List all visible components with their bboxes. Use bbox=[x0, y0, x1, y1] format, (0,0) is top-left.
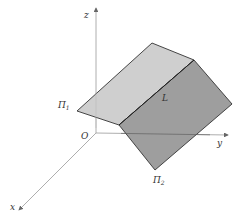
plane-1-label: Π1 bbox=[57, 100, 70, 111]
plane-2-label: Π2 bbox=[152, 175, 165, 186]
x-axis-label: x bbox=[10, 202, 15, 212]
origin-label: O bbox=[81, 131, 89, 141]
x-axis bbox=[19, 133, 96, 210]
diagram-canvas: z y x O L Π1 Π2 bbox=[0, 0, 239, 222]
z-axis-label: z bbox=[83, 10, 89, 20]
line-L-label: L bbox=[161, 93, 168, 103]
y-axis-label: y bbox=[216, 138, 223, 148]
